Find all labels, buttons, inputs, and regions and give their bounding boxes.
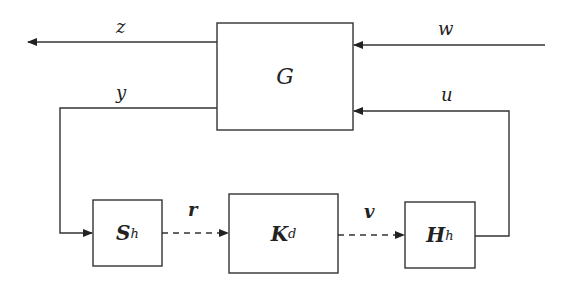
- sampler-block: Sh: [93, 200, 162, 266]
- signal-z-label: z: [116, 18, 125, 36]
- sampler-subscript: h: [131, 226, 139, 241]
- controller-label: K: [271, 222, 288, 246]
- hold-subscript: h: [445, 228, 453, 243]
- sampler-label: S: [116, 221, 130, 245]
- signal-u-label: u: [441, 86, 453, 104]
- signal-y-label: y: [116, 84, 126, 102]
- controller-subscript: d: [288, 226, 296, 241]
- controller-block: Kd: [229, 194, 338, 273]
- plant-label: G: [276, 64, 294, 89]
- signal-v-label: v: [364, 203, 374, 221]
- signal-w-label: w: [438, 20, 453, 38]
- hold-block: Hh: [405, 202, 475, 268]
- plant-block: G: [217, 23, 353, 130]
- hold-label: H: [426, 223, 445, 247]
- signal-r-label: r: [188, 201, 197, 219]
